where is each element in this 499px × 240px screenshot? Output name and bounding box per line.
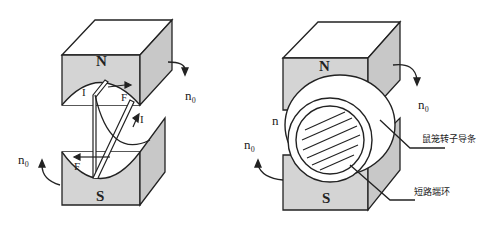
right-rotation-label-right: n₀ bbox=[418, 97, 429, 113]
right-north-label: N bbox=[319, 58, 330, 75]
left-rotation-label-left: n₀ bbox=[18, 152, 29, 168]
left-north-label: N bbox=[96, 53, 107, 70]
rotor-speed-label: n bbox=[272, 113, 279, 129]
right-rotation-label-left: n₀ bbox=[244, 137, 255, 153]
left-north-magnet bbox=[62, 20, 172, 105]
rotor-bar-label: 鼠笼转子导条 bbox=[422, 132, 476, 145]
current-label-right: I bbox=[140, 113, 144, 125]
right-south-label: S bbox=[322, 190, 330, 207]
force-label-bottom: F bbox=[74, 160, 80, 172]
left-rotation-label-right: n₀ bbox=[185, 88, 196, 104]
force-label-top: F bbox=[121, 91, 127, 103]
current-label-top: I bbox=[82, 86, 86, 98]
left-south-label: S bbox=[96, 188, 104, 205]
end-ring-label: 短路端环 bbox=[414, 185, 450, 198]
